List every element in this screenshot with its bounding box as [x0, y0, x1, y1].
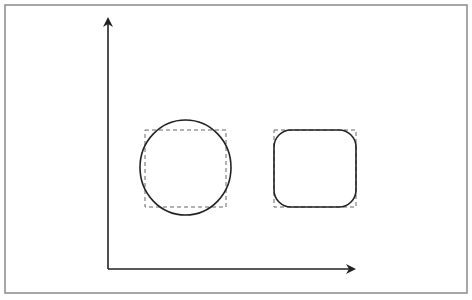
diagram-border: [5, 5, 467, 293]
circle-shape: [140, 120, 231, 215]
shapes-group: [140, 120, 356, 215]
diagram-svg: [0, 0, 472, 300]
diagram-canvas: [0, 0, 472, 300]
circle-bounding-box: [145, 130, 226, 207]
rounded-rectangle-shape: [274, 130, 356, 207]
rounded-rectangle-bounding-box: [274, 130, 356, 207]
